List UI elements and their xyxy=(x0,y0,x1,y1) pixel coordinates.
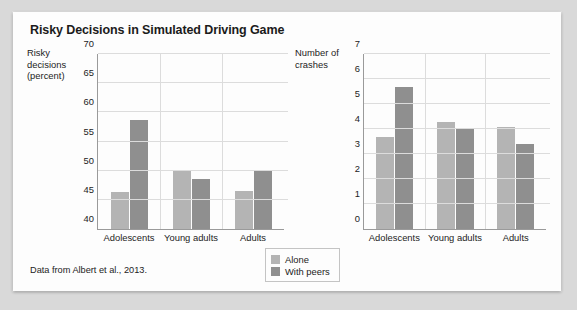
gridline xyxy=(364,178,550,179)
gridline xyxy=(364,128,550,129)
group-separator xyxy=(160,54,161,229)
legend-label-with-peers: With peers xyxy=(285,266,330,277)
page-title: Risky Decisions in Simulated Driving Gam… xyxy=(30,23,284,37)
gridline xyxy=(98,228,288,229)
bar xyxy=(437,122,455,230)
group-separator xyxy=(222,54,223,229)
legend-item-alone: Alone xyxy=(271,253,330,265)
figure-card: Risky Decisions in Simulated Driving Gam… xyxy=(13,12,561,291)
legend-swatch-icon-alone xyxy=(271,255,280,264)
plot-area-left: AdolescentsYoung adultsAdults 4045505560… xyxy=(97,54,284,230)
legend-swatch-icon-with-peers xyxy=(271,267,280,276)
x-axis-labels-right: AdolescentsYoung adultsAdults xyxy=(364,232,546,243)
y-axis-tick-left: 55 xyxy=(84,125,94,136)
y-axis-tick-left: 50 xyxy=(84,154,94,165)
gridline xyxy=(364,203,550,204)
x-axis-label: Adults xyxy=(485,232,546,243)
y-axis-tick-left: 45 xyxy=(84,183,94,194)
y-axis-tick-right: 2 xyxy=(355,163,360,174)
gridline xyxy=(364,228,550,229)
y-axis-tick-right: 7 xyxy=(355,38,360,49)
source-note: Data from Albert et al., 2013. xyxy=(30,265,147,275)
gridline xyxy=(364,153,550,154)
gridline xyxy=(98,141,288,142)
y-axis-tick-left: 70 xyxy=(84,38,94,49)
bar-group xyxy=(222,54,284,229)
x-axis-label: Young adults xyxy=(425,232,486,243)
gridline xyxy=(364,53,550,54)
legend-label-alone: Alone xyxy=(285,254,309,265)
bar xyxy=(235,191,253,229)
y-axis-title-left: Risky decisions (percent) xyxy=(27,47,89,82)
plot-area-right: AdolescentsYoung adultsAdults 01234567 xyxy=(363,54,546,230)
x-axis-labels-left: AdolescentsYoung adultsAdults xyxy=(98,232,284,243)
gridline xyxy=(98,111,288,112)
bar xyxy=(130,120,148,229)
gridline xyxy=(364,78,550,79)
y-axis-tick-right: 0 xyxy=(355,213,360,224)
group-separator xyxy=(485,54,486,229)
y-axis-tick-left: 65 xyxy=(84,67,94,78)
x-axis-label: Adults xyxy=(222,232,284,243)
x-axis-label: Adolescents xyxy=(364,232,425,243)
y-axis-title-right: Number of crashes xyxy=(295,47,359,70)
y-axis-tick-right: 4 xyxy=(355,113,360,124)
bar xyxy=(376,137,394,230)
bar-group xyxy=(98,54,160,229)
y-axis-tick-left: 60 xyxy=(84,96,94,107)
bar xyxy=(395,87,413,230)
gridline xyxy=(98,170,288,171)
x-axis-label: Adolescents xyxy=(98,232,160,243)
y-axis-tick-left: 40 xyxy=(84,213,94,224)
bar-groups-left xyxy=(98,54,284,229)
bar-group xyxy=(160,54,222,229)
group-separator xyxy=(425,54,426,229)
x-axis-label: Young adults xyxy=(160,232,222,243)
y-axis-tick-right: 6 xyxy=(355,63,360,74)
gridline xyxy=(98,53,288,54)
gridline xyxy=(364,103,550,104)
bar xyxy=(111,192,129,229)
gridline xyxy=(98,199,288,200)
y-axis-tick-right: 3 xyxy=(355,138,360,149)
bar xyxy=(192,179,210,229)
chart-legend: Alone With peers xyxy=(265,248,340,282)
legend-item-with-peers: With peers xyxy=(271,265,330,277)
y-axis-tick-right: 1 xyxy=(355,188,360,199)
bar xyxy=(456,129,474,229)
y-axis-tick-right: 5 xyxy=(355,88,360,99)
bar xyxy=(516,144,534,229)
gridline xyxy=(98,82,288,83)
